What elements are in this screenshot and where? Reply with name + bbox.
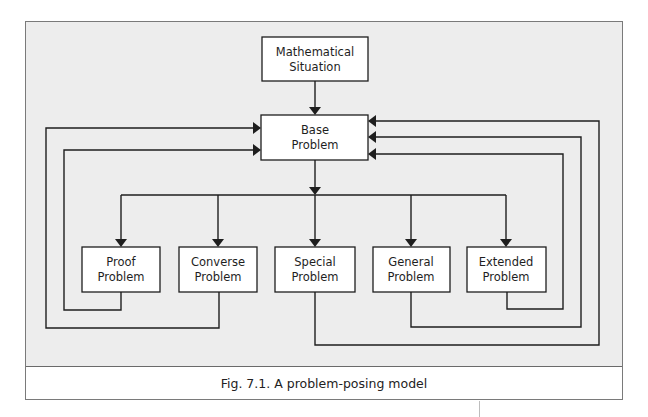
node-general-problem: General Problem: [373, 247, 450, 292]
edge-base-to-bus: [121, 160, 506, 195]
node-label: Problem: [291, 138, 338, 152]
node-converse-problem: Converse Problem: [179, 247, 257, 292]
node-label: Mathematical: [276, 45, 354, 59]
node-label: Converse: [191, 255, 245, 269]
edge-bus-to-general: [405, 195, 417, 247]
problem-posing-diagram: Mathematical Situation Base Problem Proo…: [0, 0, 648, 417]
node-label: Problem: [387, 270, 434, 284]
node-label: Situation: [289, 60, 340, 74]
edge-bus-to-special: [309, 195, 321, 247]
node-label: Problem: [97, 270, 144, 284]
edge-bus-to-extended: [500, 195, 512, 247]
edge-general-to-base: [368, 131, 581, 327]
edge-bus-to-converse: [212, 195, 224, 247]
node-label: Extended: [479, 255, 534, 269]
edge-converse-to-base: [46, 122, 261, 328]
node-proof-problem: Proof Problem: [82, 247, 160, 292]
node-label: Proof: [106, 255, 136, 269]
edge-situation-to-base: [309, 81, 321, 115]
node-label: Base: [301, 123, 329, 137]
node-base-problem: Base Problem: [261, 115, 368, 160]
node-special-problem: Special Problem: [275, 247, 355, 292]
edge-bus-to-proof: [115, 195, 127, 247]
node-label: General: [388, 255, 433, 269]
node-mathematical-situation: Mathematical Situation: [262, 37, 368, 81]
node-label: Special: [294, 255, 335, 269]
node-label: Problem: [291, 270, 338, 284]
node-extended-problem: Extended Problem: [467, 247, 546, 292]
node-label: Problem: [194, 270, 241, 284]
node-label: Problem: [482, 270, 529, 284]
